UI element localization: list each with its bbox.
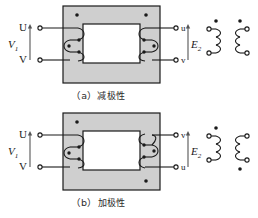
winding-node-secondary-mid-a bbox=[152, 44, 155, 47]
core-polarity-dot-top-left-b bbox=[75, 120, 79, 124]
core-polarity-dot-top-left-a bbox=[75, 13, 79, 17]
label-secondary-emf-a: E2 bbox=[190, 38, 202, 53]
terminal-v-a bbox=[174, 58, 178, 62]
label-terminal-v-b: v bbox=[181, 130, 186, 140]
winding-node-primary-lower-b bbox=[77, 157, 80, 160]
figure-panel-b: U V v u V1 E2 （b）加极性 bbox=[0, 109, 258, 218]
caption-index-b: （b） bbox=[71, 197, 98, 208]
core-polarity-dot-bottom-right-b bbox=[144, 179, 148, 183]
schematic-coil-right-b bbox=[236, 136, 246, 160]
winding-node-primary-upper-b bbox=[77, 145, 80, 148]
label-primary-voltage-b: V1 bbox=[8, 145, 18, 160]
figure-panel-a: U V u v V1 E2 （a）减极性 bbox=[0, 0, 258, 109]
schematic-terminal-left-bottom-a bbox=[207, 51, 211, 55]
terminal-V-a bbox=[38, 58, 42, 62]
schematic-terminal-right-bottom-a bbox=[245, 51, 249, 55]
core-window-a bbox=[83, 24, 140, 63]
label-terminal-u-b: u bbox=[181, 162, 186, 172]
caption-text-a: 减极性 bbox=[97, 91, 125, 101]
schematic-symbol-a bbox=[207, 19, 249, 55]
schematic-symbol-b bbox=[207, 126, 249, 171]
label-secondary-emf-b: E2 bbox=[190, 145, 202, 160]
label-terminal-V-b: V bbox=[19, 160, 27, 172]
terminal-U-b bbox=[38, 133, 42, 137]
winding-node-secondary-lower-b bbox=[142, 155, 145, 158]
core-window-b bbox=[83, 131, 140, 170]
schematic-terminal-left-top-a bbox=[207, 27, 211, 31]
schematic-terminal-right-top-a bbox=[245, 27, 249, 31]
label-terminal-v-a: v bbox=[181, 55, 186, 65]
winding-node-secondary-upper-b bbox=[142, 143, 145, 146]
schematic-polarity-dot-right-a bbox=[238, 19, 242, 23]
winding-node-secondary-upper-a bbox=[142, 38, 145, 41]
schematic-terminal-left-bottom-b bbox=[207, 158, 211, 162]
winding-node-secondary-lower-a bbox=[142, 50, 145, 53]
voltage-arrowhead-secondary-b bbox=[186, 131, 190, 136]
label-terminal-u-a: u bbox=[181, 23, 186, 33]
voltage-arrowhead-primary-b bbox=[28, 131, 32, 136]
schematic-coil-right-a bbox=[236, 29, 246, 53]
caption-panel-b: （b）加极性 bbox=[0, 195, 196, 209]
caption-index-a: （a） bbox=[71, 90, 97, 101]
label-terminal-U-b: U bbox=[19, 128, 27, 140]
terminal-U-a bbox=[38, 26, 42, 30]
caption-panel-a: （a）减极性 bbox=[0, 88, 196, 102]
label-primary-voltage-a: V1 bbox=[8, 38, 18, 53]
winding-node-primary-upper-a bbox=[77, 38, 80, 41]
label-terminal-U-a: U bbox=[19, 21, 27, 33]
winding-node-primary-mid-b bbox=[67, 151, 70, 154]
label-terminal-V-a: V bbox=[19, 53, 27, 65]
schematic-polarity-dot-left-a bbox=[214, 19, 218, 23]
terminal-v-b bbox=[174, 133, 178, 137]
winding-node-primary-lower-a bbox=[77, 50, 80, 53]
voltage-arrowhead-secondary-a bbox=[186, 24, 190, 29]
schematic-coil-left-a bbox=[211, 29, 221, 53]
terminal-u-a bbox=[174, 26, 178, 30]
voltage-arrowhead-primary-a bbox=[28, 24, 32, 29]
terminal-V-b bbox=[38, 165, 42, 169]
core-polarity-dot-top-right-a bbox=[144, 13, 148, 17]
schematic-terminal-right-bottom-b bbox=[245, 158, 249, 162]
schematic-polarity-dot-right-b bbox=[238, 167, 242, 171]
caption-text-b: 加极性 bbox=[98, 198, 126, 208]
schematic-coil-left-b bbox=[211, 136, 221, 160]
schematic-terminal-left-top-b bbox=[207, 134, 211, 138]
schematic-polarity-dot-left-b bbox=[214, 126, 218, 130]
schematic-terminal-right-top-b bbox=[245, 134, 249, 138]
winding-node-primary-mid-a bbox=[67, 44, 70, 47]
terminal-u-b bbox=[174, 165, 178, 169]
winding-node-secondary-mid-b bbox=[152, 149, 155, 152]
